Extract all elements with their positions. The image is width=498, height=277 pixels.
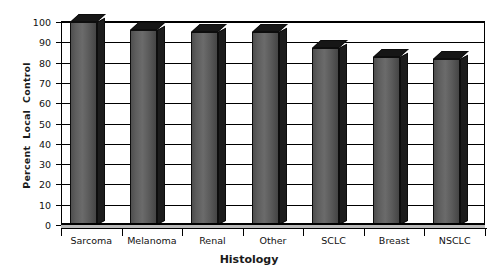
bar-front-face	[433, 59, 460, 225]
y-axis-tick-mark	[56, 205, 61, 206]
bar-front-face	[70, 22, 97, 225]
bar-side-face	[339, 44, 347, 225]
x-axis-category-label: SCLC	[321, 235, 346, 246]
x-axis-category-label: Breast	[379, 235, 410, 246]
x-axis-tick-mark	[364, 229, 365, 236]
bar-front-face	[252, 32, 279, 225]
x-axis-tick-mark	[61, 229, 62, 236]
y-axis-tick-label: 100	[19, 17, 51, 28]
bar-side-face	[460, 54, 468, 225]
y-axis-tick-label: 30	[19, 159, 51, 170]
bar-front-face	[373, 57, 400, 225]
y-axis-tick-mark	[56, 22, 61, 23]
x-axis-category-label: NSCLC	[439, 235, 471, 246]
bar-side-face	[279, 28, 287, 225]
bar	[130, 30, 157, 225]
y-axis-tick-label: 60	[19, 98, 51, 109]
x-axis-category-label: Melanoma	[127, 235, 176, 246]
axis-baseline	[61, 224, 485, 225]
x-axis-tick-mark	[485, 229, 486, 236]
bar	[191, 32, 218, 225]
y-axis-tick-label: 50	[19, 118, 51, 129]
y-axis-tick-label: 80	[19, 57, 51, 68]
bar	[312, 48, 339, 225]
x-axis-tick-mark	[243, 229, 244, 236]
y-axis-tick-label: 0	[19, 220, 51, 231]
y-axis-tick-mark	[56, 63, 61, 64]
x-axis-tick-mark	[303, 229, 304, 236]
bar-front-face	[312, 48, 339, 225]
y-axis-tick-label: 20	[19, 179, 51, 190]
y-axis-tick-mark	[56, 83, 61, 84]
plot-area: 0102030405060708090100	[61, 21, 485, 228]
y-axis-tick-mark	[56, 144, 61, 145]
bar	[373, 57, 400, 225]
x-axis-tick-mark	[424, 229, 425, 236]
y-axis-tick-label: 40	[19, 138, 51, 149]
bar	[70, 22, 97, 225]
y-axis-tick-label: 90	[19, 37, 51, 48]
x-axis-title: Histology	[0, 253, 498, 266]
y-axis-tick-label: 10	[19, 199, 51, 210]
x-axis-tick-mark	[182, 229, 183, 236]
y-axis-tick-label: 70	[19, 77, 51, 88]
x-axis-tick-mark	[122, 229, 123, 236]
y-axis-tick-mark	[56, 164, 61, 165]
x-axis-category-label: Other	[260, 235, 287, 246]
gridline	[61, 22, 485, 23]
x-axis-category-label: Sarcoma	[70, 235, 112, 246]
bar-front-face	[130, 30, 157, 225]
x-axis-line	[61, 228, 487, 229]
y-axis-tick-mark	[56, 103, 61, 104]
bar-side-face	[157, 26, 165, 225]
bar-side-face	[218, 28, 226, 225]
y-axis-tick-mark	[56, 42, 61, 43]
bar	[433, 59, 460, 225]
x-axis-category-label: Renal	[199, 235, 226, 246]
y-axis-tick-mark	[56, 124, 61, 125]
bar-front-face	[191, 32, 218, 225]
bar	[252, 32, 279, 225]
bar-side-face	[97, 18, 105, 225]
bar-chart: Percent Local Control Histology 01020304…	[0, 0, 498, 277]
bar-side-face	[400, 52, 408, 225]
y-axis-tick-mark	[56, 184, 61, 185]
